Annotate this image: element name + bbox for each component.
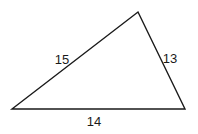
triangle-diagram: 15 13 14 (0, 0, 198, 134)
side-label-right: 13 (163, 51, 177, 66)
side-label-left: 15 (55, 52, 69, 67)
triangle-shape (12, 12, 185, 109)
side-label-base: 14 (87, 114, 101, 129)
